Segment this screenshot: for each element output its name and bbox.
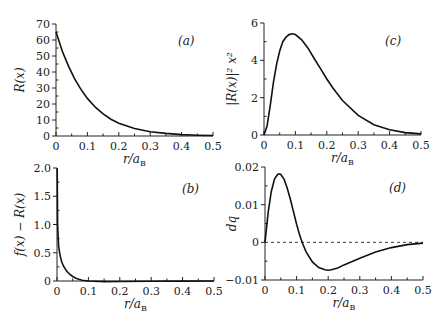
panel-a-y-tick-label: 0 xyxy=(43,130,50,143)
panel-c-y-tick-label: 0 xyxy=(251,129,258,142)
panel-b-x-tick-label: 0.5 xyxy=(205,285,223,298)
panel-c-x-tick-label: 0.1 xyxy=(287,139,305,152)
panel-c-y-tick-label: 4 xyxy=(251,54,258,67)
panel-d-x-tick-label: 0.1 xyxy=(288,284,306,297)
panel-a-x-tick-label: 0.5 xyxy=(204,140,222,153)
panel-b-y-tick-label: 0 xyxy=(44,275,51,288)
panel-c-x-tick-label: 0.4 xyxy=(381,139,399,152)
panel-d-x-tick-label: 0 xyxy=(262,284,269,297)
panel-c-y-axis-label: |R(x)|² x² xyxy=(225,52,239,106)
panel-d-x-axis-label: r/aB xyxy=(333,296,356,312)
panel-c-x-axis-label: r/aB xyxy=(331,151,354,167)
panel-a-y-axis-label: R(x) xyxy=(13,67,27,93)
panel-a-y-tick-label: 70 xyxy=(36,18,50,31)
panel-b-y-tick-label: 1.5 xyxy=(34,190,52,203)
panel-a-panel-label: (a) xyxy=(178,34,195,48)
panel-d-panel-label: (d) xyxy=(389,181,406,195)
panel-d-y-tick-label: 0.02 xyxy=(235,161,260,174)
panel-b-x-tick-label: 0.3 xyxy=(142,285,160,298)
figure: 00.10.20.30.40.5010203040506070r/aBR(x)(… xyxy=(0,0,446,325)
panel-d-y-axis-label: dq xyxy=(225,216,239,232)
panel-a-y-tick-label: 20 xyxy=(36,98,50,111)
panel-c-x-tick-label: 0 xyxy=(261,139,268,152)
panel-c-y-tick-label: 6 xyxy=(251,17,258,30)
panel-c-x-tick-label: 0.3 xyxy=(349,139,367,152)
panel-a-x-tick-label: 0.1 xyxy=(79,140,97,153)
panel-c-y-tick-label: 2 xyxy=(251,92,258,105)
panel-c-panel-label: (c) xyxy=(385,34,401,48)
panel-c-series-line xyxy=(264,34,421,135)
panel-b-x-tick-label: 0.1 xyxy=(80,285,98,298)
panel-b-x-axis-label: r/aB xyxy=(124,297,147,313)
panel-a-y-tick-label: 40 xyxy=(36,66,50,79)
panel-a-x-tick-label: 0.4 xyxy=(173,140,191,153)
panel-a-x-tick-label: 0.3 xyxy=(141,140,159,153)
panel-a-x-axis-label: r/aB xyxy=(123,152,146,168)
panel-a-y-tick-label: 60 xyxy=(36,34,50,47)
panel-d-y-tick-label: 0.01 xyxy=(235,199,260,212)
panel-b-y-tick-label: 2.0 xyxy=(34,162,52,175)
panel-b-x-tick-label: 0 xyxy=(54,285,61,298)
panel-a-y-tick-label: 50 xyxy=(36,50,50,63)
panel-d-y-tick-label: −0.01 xyxy=(225,274,259,287)
panel-d-y-tick-label: 0 xyxy=(252,236,259,249)
panel-b-y-tick-label: 1.0 xyxy=(34,219,52,232)
panel-d-x-tick-label: 0.5 xyxy=(414,284,432,297)
panel-b-y-axis-label: f(x) − R(x) xyxy=(13,192,27,257)
panel-b-x-tick-label: 0.4 xyxy=(174,285,192,298)
panel-a-x-tick-label: 0 xyxy=(53,140,60,153)
panel-b-y-tick-label: 0.5 xyxy=(34,247,52,260)
panel-d-x-tick-label: 0.3 xyxy=(351,284,369,297)
panel-a-y-tick-label: 30 xyxy=(36,82,50,95)
panel-a-y-tick-label: 10 xyxy=(36,114,50,127)
panel-b-panel-label: (b) xyxy=(182,182,199,196)
panel-d-x-tick-label: 0.4 xyxy=(383,284,401,297)
panel-c-x-tick-label: 0.5 xyxy=(412,139,430,152)
